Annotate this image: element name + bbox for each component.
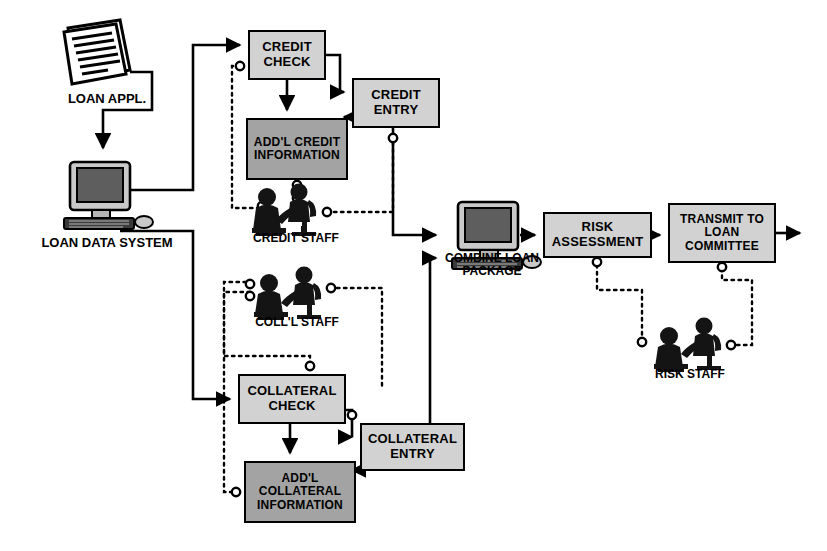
process-box-addl-credit-information[interactable]: ADD'L CREDIT INFORMATION <box>246 118 348 180</box>
box-label: COLLATERAL ENTRY <box>362 432 463 461</box>
caption-combine-loan-package: COMBINE LOAN PACKAGE <box>428 252 556 278</box>
document-icon <box>64 20 130 84</box>
caption-risk-staff: RISK STAFF <box>640 368 740 381</box>
process-box-collateral-check[interactable]: COLLATERAL CHECK <box>238 374 346 424</box>
box-label: CREDIT ENTRY <box>354 88 438 117</box>
process-box-credit-check[interactable]: CREDIT CHECK <box>248 30 326 80</box>
box-label: RISK ASSESSMENT <box>545 220 650 249</box>
box-label: COLLATERAL CHECK <box>240 384 344 413</box>
caption-loan-data-system: LOAN DATA SYSTEM <box>22 236 192 250</box>
process-box-risk-assessment[interactable]: RISK ASSESSMENT <box>543 212 652 258</box>
process-box-collateral-entry[interactable]: COLLATERAL ENTRY <box>360 423 465 471</box>
box-label: TRANSMIT TO LOAN COMMITTEE <box>670 213 774 253</box>
box-label: CREDIT CHECK <box>250 40 324 69</box>
flowchart-canvas: CREDIT CHECK CREDIT ENTRY ADD'L CREDIT I… <box>0 0 827 551</box>
caption-collateral-staff: COLL'L STAFF <box>242 316 352 329</box>
caption-credit-staff: CREDIT STAFF <box>238 232 354 245</box>
process-box-credit-entry[interactable]: CREDIT ENTRY <box>352 78 440 128</box>
box-label: ADD'L COLLATERAL INFORMATION <box>246 472 354 512</box>
process-box-transmit-to-loan-committee[interactable]: TRANSMIT TO LOAN COMMITTEE <box>668 203 776 263</box>
people-icon-collateral-staff <box>254 267 321 321</box>
process-box-addl-collateral-information[interactable]: ADD'L COLLATERAL INFORMATION <box>244 461 356 523</box>
people-icon-risk-staff <box>654 318 721 373</box>
people-icon-credit-staff <box>252 184 316 237</box>
computer-icon-loan-data-system <box>64 162 153 229</box>
box-label: ADD'L CREDIT INFORMATION <box>248 136 346 163</box>
caption-loan-appl: LOAN APPL. <box>52 92 162 106</box>
